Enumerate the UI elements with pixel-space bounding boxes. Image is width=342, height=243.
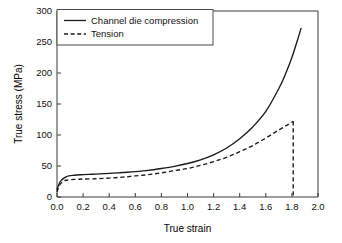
x-tick-label-9: 1.8 [285, 201, 298, 212]
x-tick-label-4: 0.8 [155, 201, 168, 212]
x-tick-label-3: 0.6 [129, 201, 142, 212]
x-axis-tick-labels: 0.00.20.40.60.81.01.21.41.61.82.0 [50, 201, 324, 212]
x-tick-label-5: 1.0 [181, 201, 194, 212]
y-tick-label-3: 150 [36, 98, 52, 109]
x-tick-label-0: 0.0 [50, 201, 63, 212]
y-axis-tick-labels: 050100150200250300 [36, 5, 52, 202]
stress-strain-chart-figure: 0.00.20.40.60.81.01.21.41.61.82.0 050100… [0, 0, 342, 243]
y-tick-label-4: 200 [36, 67, 52, 78]
y-tick-label-5: 250 [36, 36, 52, 47]
chart-canvas: 0.00.20.40.60.81.01.21.41.61.82.0 050100… [0, 0, 342, 243]
x-axis-ticks [57, 193, 318, 197]
series-tension [57, 121, 293, 192]
x-tick-label-6: 1.2 [207, 201, 220, 212]
x-tick-label-8: 1.6 [259, 201, 272, 212]
y-tick-label-0: 0 [47, 191, 52, 202]
x-tick-label-2: 0.4 [103, 201, 116, 212]
y-tick-label-6: 300 [36, 5, 52, 16]
chart-legend: Channel die compression Tension [57, 10, 213, 46]
series-channel-die-compression [57, 28, 301, 189]
x-tick-label-1: 0.2 [76, 201, 89, 212]
legend-label-channel-die-compression: Channel die compression [91, 15, 198, 26]
data-series-group [57, 28, 301, 197]
x-tick-label-10: 2.0 [311, 201, 324, 212]
legend-label-tension: Tension [91, 28, 124, 39]
y-axis-title: True stress (MPa) [13, 64, 24, 144]
x-axis-title: True strain [164, 223, 211, 234]
x-tick-label-7: 1.4 [233, 201, 246, 212]
y-tick-label-1: 50 [41, 160, 52, 171]
y-tick-label-2: 100 [36, 129, 52, 140]
